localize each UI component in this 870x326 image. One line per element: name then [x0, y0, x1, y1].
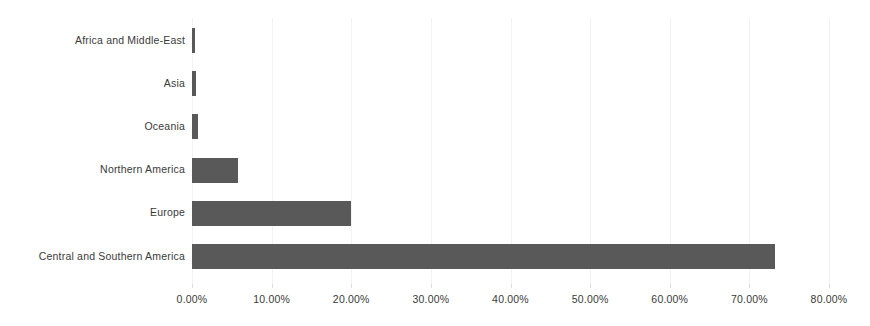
bar[interactable] — [192, 28, 195, 53]
y-axis-label: Asia — [0, 77, 185, 89]
x-axis-tick-mark — [351, 284, 352, 288]
x-axis-tick-label: 0.00% — [147, 293, 237, 305]
x-axis-tick-mark — [829, 284, 830, 288]
x-axis-tick-label: 60.00% — [625, 293, 715, 305]
x-axis-tick-mark — [192, 284, 193, 288]
x-axis-tick-mark — [272, 284, 273, 288]
bar[interactable] — [192, 158, 238, 183]
x-axis-tick-label: 80.00% — [784, 293, 870, 305]
plot-area — [192, 18, 829, 284]
x-axis-tick-label: 10.00% — [227, 293, 317, 305]
bar[interactable] — [192, 201, 351, 226]
x-axis: 0.00%10.00%20.00%30.00%40.00%50.00%60.00… — [0, 284, 870, 314]
x-axis-tick-mark — [590, 284, 591, 288]
bar[interactable] — [192, 114, 198, 139]
x-axis-tick-label: 70.00% — [704, 293, 794, 305]
x-axis-tick-mark — [431, 284, 432, 288]
bar[interactable] — [192, 244, 775, 269]
y-axis-label: Oceania — [0, 120, 185, 132]
bar-chart: Africa and Middle-EastAsiaOceaniaNorther… — [0, 0, 870, 326]
x-axis-tick-mark — [670, 284, 671, 288]
y-axis-label: Europe — [0, 206, 185, 218]
x-axis-tick-mark — [749, 284, 750, 288]
x-axis-tick-label: 50.00% — [545, 293, 635, 305]
x-axis-tick-mark — [511, 284, 512, 288]
x-axis-tick-label: 30.00% — [386, 293, 476, 305]
x-axis-tick-label: 40.00% — [466, 293, 556, 305]
y-axis-label: Central and Southern America — [0, 250, 185, 262]
y-axis-label: Africa and Middle-East — [0, 34, 185, 46]
gridline-80.00% — [829, 18, 830, 284]
y-axis-label: Northern America — [0, 163, 185, 175]
bar[interactable] — [192, 71, 196, 96]
x-axis-tick-label: 20.00% — [306, 293, 396, 305]
